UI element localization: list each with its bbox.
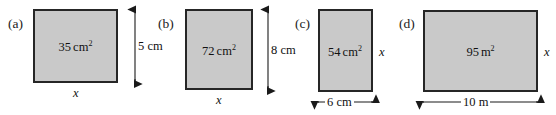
part-d: (d) 95m2 x 10 m xyxy=(0,0,556,115)
part-d-label: (d) xyxy=(399,17,415,31)
part-d-area-exponent: 2 xyxy=(491,44,495,53)
part-d-known-dimension-label: 10 m xyxy=(461,96,490,109)
part-d-area-unit: m xyxy=(481,45,491,59)
geometry-figure-canvas: (a) 35cm2 x 5 cm (b) 72cm2 xyxy=(0,0,556,115)
part-d-area-value: 95 xyxy=(466,45,479,59)
part-d-area-label: 95m2 xyxy=(423,46,538,59)
part-d-unknown-side-label: x xyxy=(544,46,550,59)
